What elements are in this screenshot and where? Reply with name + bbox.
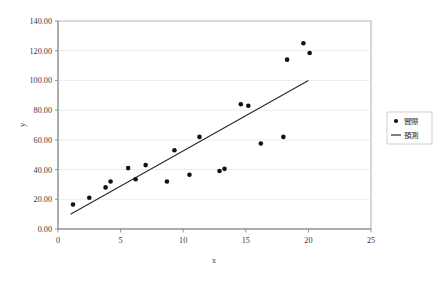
scatter-point <box>259 141 264 146</box>
y-tick-label: 100.00 <box>29 76 52 85</box>
legend-label-predicted: 預測 <box>404 131 418 140</box>
scatter-point <box>285 57 290 62</box>
scatter-point <box>281 135 286 140</box>
chart-legend: 實際 預測 <box>387 112 432 144</box>
x-tick-label: 15 <box>242 236 250 245</box>
x-tick-label: 0 <box>56 236 60 245</box>
y-tick-label: 140.00 <box>29 17 52 26</box>
scatter-point <box>222 167 227 172</box>
x-tick-label: 10 <box>179 236 187 245</box>
scatter-point <box>143 163 148 168</box>
scatter-point <box>133 177 138 182</box>
scatter-point <box>217 169 222 174</box>
y-tick-label: 120.00 <box>29 47 52 56</box>
scatter-point <box>165 179 170 184</box>
x-axis-title: x <box>212 256 216 265</box>
y-tick-label: 20.00 <box>34 195 52 204</box>
chart-container: 0.0020.0040.0060.0080.00100.00120.00140.… <box>0 0 439 281</box>
scatter-point <box>126 166 131 171</box>
scatter-point <box>238 102 243 107</box>
scatter-point <box>103 185 108 190</box>
legend-label-actual: 實際 <box>404 117 419 126</box>
scatter-point <box>108 179 113 184</box>
scatter-point <box>172 148 177 153</box>
scatter-point <box>71 202 76 207</box>
scatter-point <box>246 103 251 108</box>
legend-marker-dot-icon <box>394 119 398 123</box>
x-tick-label: 5 <box>119 236 123 245</box>
x-tick-label: 25 <box>367 236 375 245</box>
scatter-point <box>187 172 192 177</box>
y-tick-label: 80.00 <box>34 106 52 115</box>
y-tick-label: 0.00 <box>38 225 52 234</box>
scatter-point <box>307 51 312 56</box>
y-tick-label: 40.00 <box>34 166 52 175</box>
x-tick-label: 20 <box>304 236 312 245</box>
y-tick-label: 60.00 <box>34 136 52 145</box>
scatter-point <box>301 41 306 46</box>
scatter-chart: 0.0020.0040.0060.0080.00100.00120.00140.… <box>0 0 439 281</box>
scatter-point <box>87 196 92 201</box>
scatter-point <box>197 135 202 140</box>
plot-area <box>58 21 371 229</box>
